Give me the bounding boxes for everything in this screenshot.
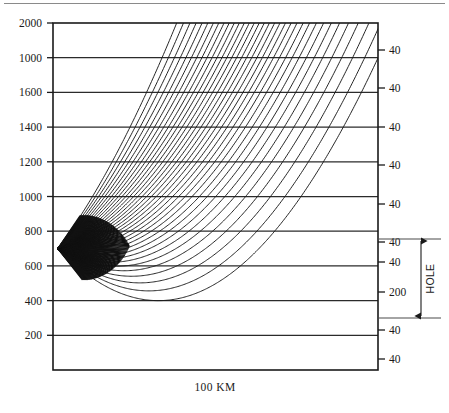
left-axis-tick-label: 2000: [19, 17, 42, 29]
ray-path: [58, 0, 237, 249]
figure-root: 200010001600140012001000800600400200 404…: [0, 0, 449, 413]
seismic-ray-plot: 200010001600140012001000800600400200 404…: [0, 0, 449, 413]
right-axis-tick-label: 40: [389, 44, 401, 56]
left-axis-tick-label: 800: [25, 225, 43, 237]
right-axis-tick-label: 40: [389, 82, 401, 94]
right-axis-tick-label: 200: [389, 286, 407, 298]
right-axis-tick-label: 40: [389, 256, 401, 268]
ray-path: [58, 0, 192, 249]
ray-paths: [58, 0, 388, 301]
left-axis-tick-label: 400: [25, 295, 43, 307]
right-axis-tick-label: 40: [389, 353, 401, 365]
right-axis-tick-label: 40: [389, 121, 401, 133]
right-axis-tick-label: 40: [389, 236, 401, 248]
x-axis-caption: 100 KM: [194, 381, 235, 393]
left-axis-tick-label: 1000: [19, 52, 42, 64]
left-axis-tick-label: 600: [25, 260, 43, 272]
hole-label: HOLE: [424, 264, 436, 294]
left-axis-tick-label: 1000: [19, 191, 42, 203]
left-axis-tick-label: 1600: [19, 86, 42, 98]
left-axis-ticks: [47, 23, 53, 335]
hole-annotation: HOLE: [378, 239, 441, 318]
right-axis-tick-label: 40: [389, 198, 401, 210]
right-axis-ticks: [378, 50, 385, 359]
right-axis-labels: 404040404040402004040: [389, 44, 407, 365]
left-axis-tick-label: 200: [25, 329, 43, 341]
right-axis-tick-label: 40: [389, 159, 401, 171]
left-axis-tick-label: 1400: [19, 121, 42, 133]
ray-path: [58, 0, 200, 249]
right-axis-tick-label: 40: [389, 324, 401, 336]
left-axis-labels: 200010001600140012001000800600400200: [19, 17, 42, 341]
ray-path: [58, 0, 219, 249]
left-axis-tick-label: 1200: [19, 156, 42, 168]
